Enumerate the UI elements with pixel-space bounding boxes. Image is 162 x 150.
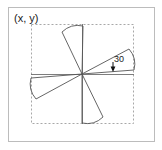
figure-screenshot: (x, y) 30 (0, 0, 162, 150)
angle-degree-label: 30 (114, 54, 124, 64)
coordinate-label: (x, y) (14, 12, 38, 24)
pinwheel-diagram: (x, y) 30 (0, 0, 162, 150)
